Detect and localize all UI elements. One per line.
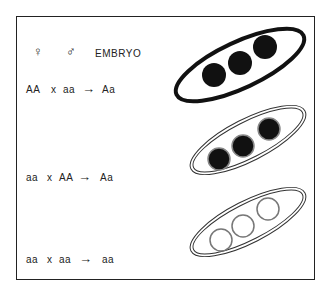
pod-light-seeds-dark [181,92,314,188]
pod-illustrations [0,0,328,293]
pod-dark-seeds-dark [167,15,313,116]
pod-light-seeds-light [181,174,314,270]
